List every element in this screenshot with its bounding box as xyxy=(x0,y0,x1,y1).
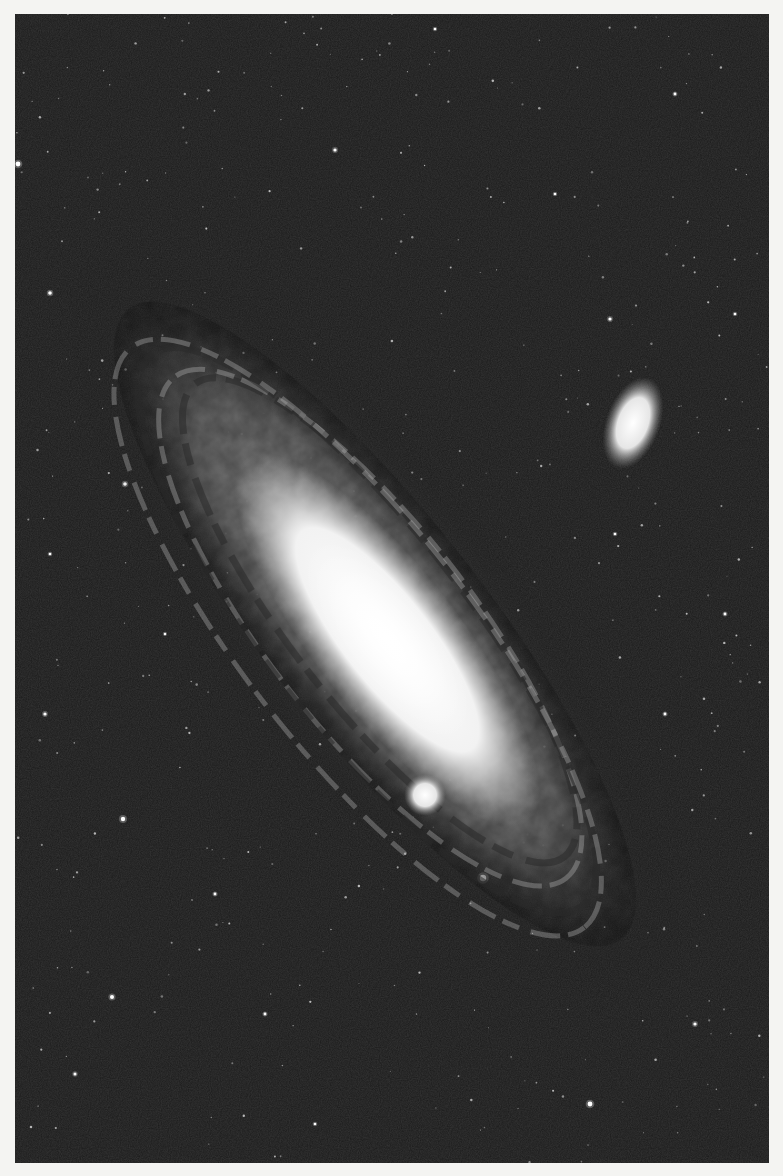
star xyxy=(717,286,719,288)
star xyxy=(707,301,709,303)
star xyxy=(47,151,49,153)
star xyxy=(185,727,187,729)
star xyxy=(168,605,170,607)
star xyxy=(407,71,408,72)
star xyxy=(36,449,39,452)
star xyxy=(94,218,95,219)
star xyxy=(212,849,213,850)
star xyxy=(270,993,272,995)
star xyxy=(516,472,517,473)
star xyxy=(31,101,32,102)
star xyxy=(73,876,75,878)
star xyxy=(752,547,753,548)
star xyxy=(632,324,633,325)
star xyxy=(711,712,713,714)
star xyxy=(37,1105,38,1106)
star xyxy=(185,142,187,144)
star xyxy=(168,974,169,975)
star xyxy=(645,366,646,367)
star xyxy=(700,769,702,771)
star xyxy=(750,832,753,835)
star xyxy=(280,1155,282,1157)
star xyxy=(301,107,303,109)
star xyxy=(30,1126,32,1128)
star xyxy=(316,44,318,46)
star xyxy=(732,662,733,663)
star xyxy=(376,50,377,51)
bright-star xyxy=(693,1022,696,1025)
star xyxy=(247,851,249,853)
star xyxy=(578,370,579,371)
star xyxy=(43,518,45,520)
star xyxy=(223,858,224,859)
star xyxy=(672,196,674,198)
star xyxy=(488,1027,489,1028)
star xyxy=(730,654,731,655)
star xyxy=(523,344,524,345)
star xyxy=(388,42,391,45)
bright-star xyxy=(264,1013,267,1016)
star xyxy=(190,681,191,682)
star xyxy=(521,103,523,105)
bright-star xyxy=(664,713,667,716)
star xyxy=(756,253,758,255)
bright-star xyxy=(554,193,557,196)
star xyxy=(395,253,396,254)
bright-star xyxy=(16,162,21,167)
star xyxy=(300,247,302,249)
star xyxy=(486,473,487,474)
star xyxy=(450,266,452,268)
star xyxy=(280,119,281,120)
star xyxy=(677,1132,679,1134)
star xyxy=(98,211,100,213)
star xyxy=(536,1082,538,1084)
star xyxy=(21,171,23,173)
star xyxy=(453,370,455,372)
star xyxy=(727,225,729,227)
star xyxy=(617,545,619,547)
star xyxy=(626,475,628,477)
star xyxy=(658,595,660,597)
star xyxy=(730,1033,731,1034)
star xyxy=(243,72,245,74)
star xyxy=(480,272,481,273)
star xyxy=(660,67,662,69)
star xyxy=(424,165,425,166)
star xyxy=(191,899,193,901)
star xyxy=(404,214,405,215)
star xyxy=(299,984,301,986)
star xyxy=(17,837,20,840)
star xyxy=(458,239,459,240)
star xyxy=(57,665,58,666)
star xyxy=(262,944,263,945)
star xyxy=(322,951,323,952)
star xyxy=(691,809,693,811)
star xyxy=(567,411,569,413)
star xyxy=(707,1084,708,1085)
star xyxy=(271,86,272,87)
bright-star xyxy=(724,613,727,616)
star xyxy=(206,847,208,849)
star xyxy=(416,1013,418,1015)
star xyxy=(703,697,706,700)
star xyxy=(153,1011,155,1013)
star xyxy=(742,401,743,402)
bright-star xyxy=(314,1123,317,1126)
star xyxy=(718,335,720,337)
star xyxy=(188,732,190,734)
star xyxy=(560,374,562,376)
star xyxy=(93,1020,95,1022)
star xyxy=(459,450,461,452)
star xyxy=(750,644,752,646)
star xyxy=(668,36,669,37)
star xyxy=(577,398,578,399)
star xyxy=(198,949,200,951)
star xyxy=(138,606,139,607)
star xyxy=(698,432,700,434)
star xyxy=(747,673,748,674)
star xyxy=(320,28,322,30)
star xyxy=(486,187,488,189)
star xyxy=(696,417,698,419)
star xyxy=(125,562,126,563)
star xyxy=(228,923,230,925)
